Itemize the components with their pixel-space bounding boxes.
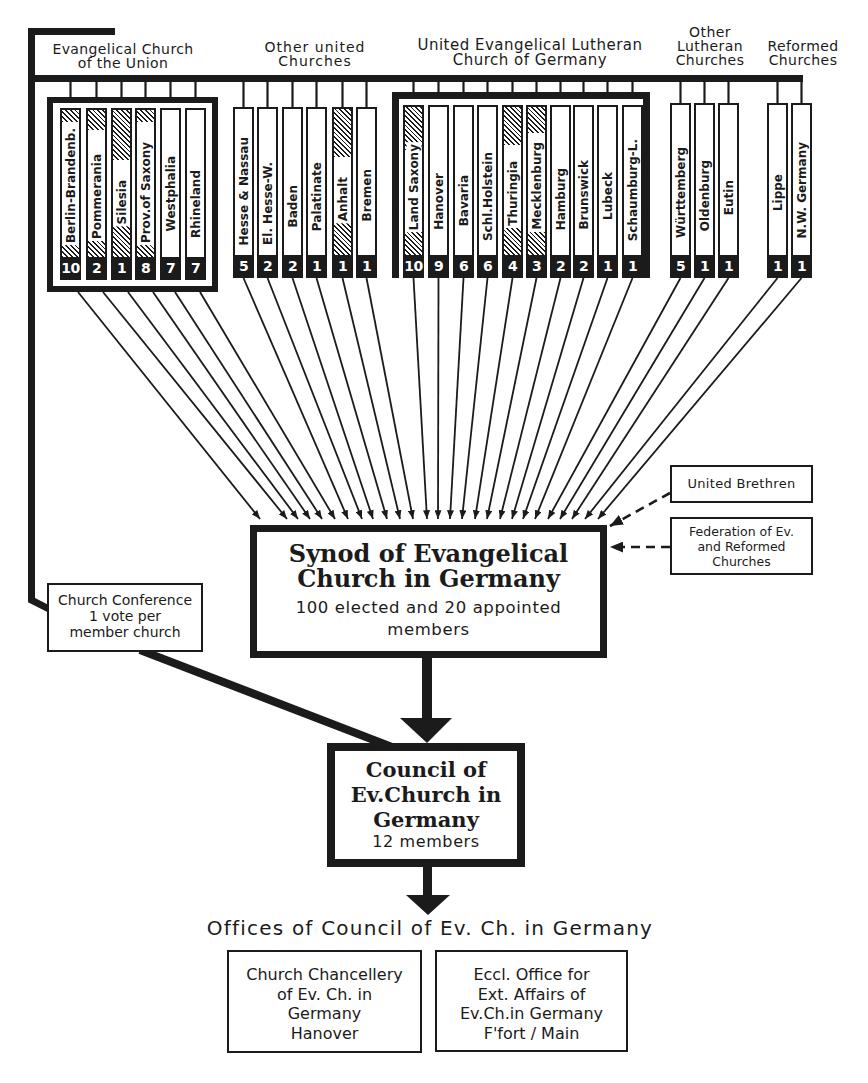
group-label-other-united: Other united Churches [240,40,390,68]
shaded-segment [334,109,351,157]
church-column: Mecklenburg 3 [526,105,547,278]
vote-count: 8 [135,257,156,280]
church-structure-diagram: Evangelical Church of the Union Other un… [0,0,868,1083]
conference-to-council-line [140,650,392,747]
church-name: Thuringia [505,159,520,228]
group-label-line: Churches [665,53,755,67]
shaded-segment [88,241,105,257]
church-column: Pommerania 2 [86,108,107,280]
shaded-segment [62,245,79,257]
church-name: Prov.of Saxony [138,140,153,245]
vote-count: 5 [233,255,254,278]
vote-count: 10 [60,257,81,280]
church-name: Palatinate [309,160,324,233]
church-column: Baden 2 [282,107,303,278]
advisory-arrows [610,493,670,547]
vote-count: 2 [282,255,303,278]
vote-count: 4 [502,255,523,278]
box-text-line: Ev.Ch.in Germany [437,1004,626,1024]
church-name: Pommerania [89,152,104,241]
vote-count: 2 [550,255,571,278]
church-name: Hanover [431,171,446,232]
church-column: Lippe 1 [767,103,788,278]
federation-box: Federation of Ev. and Reformed Churches [670,517,813,575]
group-label-velkd: United Evangelical Lutheran Church of Ge… [395,38,665,68]
vote-count: 9 [428,255,449,278]
church-column: Schaumburg-L. 1 [622,105,643,278]
church-name: Hesse & Nassau [236,135,251,248]
box-text-line: member church [49,624,201,640]
synod-subtitle-line: 100 elected and 20 appointed [257,597,600,619]
church-column: Anhalt 1 [332,107,353,278]
vote-count: 6 [453,255,474,278]
group-label-other-lutheran: Other Lutheran Churches [665,25,755,67]
council-box: Council of Ev.Church in Germany 12 membe… [327,743,525,867]
church-name: Eutin [721,178,736,217]
vote-count: 6 [477,255,498,278]
vote-count: 7 [160,257,181,280]
vote-count: 1 [767,255,788,278]
church-name: Brunswick [576,158,591,232]
shaded-segment [62,110,79,122]
shaded-segment [504,228,521,255]
church-column: N.W. Germany 1 [791,103,812,278]
group-label-line: Lutheran [665,39,755,53]
vote-count: 2 [86,257,107,280]
church-column: Land Saxony 10 [403,105,424,278]
church-name: Westphalia [163,154,178,233]
vote-count: 10 [403,255,424,278]
brethren-dashed-arrow [610,493,670,526]
vote-count: 1 [332,255,353,278]
church-column: Lubeck 1 [597,105,618,278]
church-column: Hanover 9 [428,105,449,278]
church-column: El. Hesse-W. 2 [257,107,278,278]
group-label-line: Other united [240,40,390,54]
box-text-line: Church Chancellery [229,965,420,985]
church-column: Thuringia 4 [502,105,523,278]
vote-count: 1 [694,255,715,278]
church-name: Hamburg [553,166,568,232]
top-corner-bar [28,28,115,35]
vote-count: 1 [306,255,327,278]
church-name: Anhalt [335,175,350,223]
church-name: N.W. Germany [794,140,809,240]
vote-count: 1 [718,255,739,278]
group-label-line: Evangelical Church [38,42,208,56]
vote-count: 1 [597,255,618,278]
church-column: Palatinate 1 [306,107,327,278]
church-name: Berlin-Brandenb. [63,126,78,245]
box-text-line: Federation of Ev. [672,524,811,539]
church-name: Baden [285,183,300,230]
vote-count: 1 [356,255,377,278]
church-name: Rhineland [188,168,203,240]
group-label-line: Churches [758,53,848,67]
offices-heading: Offices of Council of Ev. Ch. in Germany [110,915,750,941]
church-chancellery-box: Church Chancellery of Ev. Ch. in Germany… [227,950,422,1053]
church-name: Schl.Holstein [480,150,495,243]
box-text-line: Churches [672,554,811,569]
group-label-evangelical-church-union: Evangelical Church of the Union [38,42,208,70]
council-members: 12 members [335,833,517,851]
council-to-offices-arrow [406,865,450,915]
group-label-line: Church of Germany [395,53,665,68]
church-name: Bremen [359,167,374,223]
church-name: Land Saxony [406,142,421,232]
church-name: Schaumburg-L. [625,137,640,243]
church-column: Bavaria 6 [453,105,474,278]
church-column: Prov.of Saxony 8 [135,108,156,280]
shaded-segment [334,223,351,255]
synod-to-council-arrow [400,655,452,743]
vote-count: 1 [791,255,812,278]
church-column: Westphalia 7 [160,108,181,280]
box-text-line: United Brethren [672,467,811,501]
church-column: Oldenburg 1 [694,103,715,278]
main-horizontal-bar [28,75,803,82]
shaded-segment [113,110,130,160]
box-text-line: Germany [229,1004,420,1024]
box-text-line: F'fort / Main [437,1024,626,1044]
vote-count: 1 [111,257,132,280]
external-affairs-office-box: Eccl. Office for Ext. Affairs of Ev.Ch.i… [435,950,628,1052]
group-label-reformed: Reformed Churches [758,39,848,67]
church-column: Schl.Holstein 6 [477,105,498,278]
synod-box: Synod of Evangelical Church in Germany 1… [250,525,607,658]
